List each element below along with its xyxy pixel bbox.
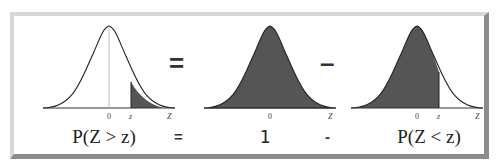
minus-sign-bottom: - [325, 128, 330, 145]
equals-sign-top: = [169, 48, 184, 79]
tick-0: 0 [107, 112, 111, 121]
panel-right-tail: 0 z Z [28, 16, 178, 126]
tick-Z: Z [475, 112, 480, 121]
formula-right: P(Z < z) [379, 126, 479, 148]
tick-0: 0 [415, 112, 419, 121]
minus-sign-top: – [320, 48, 334, 79]
panel-full-area: 0 Z [190, 16, 340, 126]
equals-sign-bottom: = [174, 128, 183, 145]
formula-middle: 1 [240, 126, 290, 147]
tick-Z: Z [167, 112, 172, 121]
tick-z: z [436, 112, 441, 121]
tick-0: 0 [268, 112, 272, 121]
tick-Z: Z [328, 112, 333, 121]
formula-left: P(Z > z) [54, 126, 154, 148]
diagram-frame: 0 z Z 0 Z 0 z Z = – P(Z > z) = 1 - P(Z <… [10, 12, 489, 159]
shaded-full-area [204, 26, 336, 108]
panel-left-of-z: 0 z Z [336, 16, 486, 126]
tick-z: z [128, 112, 133, 121]
